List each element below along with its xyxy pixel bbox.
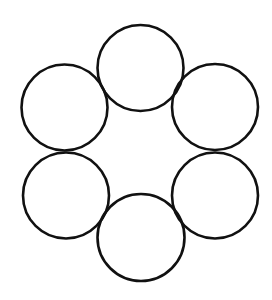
circle-ring-group xyxy=(22,25,259,281)
six-circle-ring-diagram xyxy=(0,0,272,300)
circle-lower-left xyxy=(23,153,109,239)
circle-bottom xyxy=(98,194,185,281)
diagram-canvas xyxy=(0,0,272,300)
circle-lower-right xyxy=(172,153,258,239)
circle-upper-right xyxy=(172,64,258,150)
circle-upper-left xyxy=(22,65,108,151)
circle-top xyxy=(98,25,184,111)
